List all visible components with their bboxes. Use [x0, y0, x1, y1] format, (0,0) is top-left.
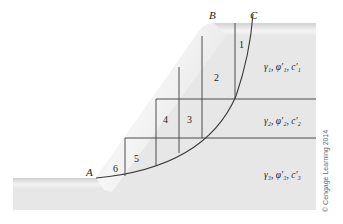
slice-number-5: 5	[134, 153, 139, 164]
point-c-label: C	[250, 9, 258, 21]
point-b-label: B	[209, 9, 216, 21]
slice-number-3: 3	[187, 114, 192, 125]
point-a-label: A	[85, 166, 93, 178]
layer-2-properties: γ₂, φ′₂, c′₂	[264, 116, 301, 126]
slice-number-4: 4	[163, 114, 168, 125]
slice-number-6: 6	[113, 163, 118, 174]
copyright-notice: © Cengage Learning 2014	[322, 130, 330, 212]
slope-stability-diagram: A B C 1 2 3 4 5 6 γ₁, φ′₁, c′₁ γ₂, φ′₂, …	[0, 0, 343, 224]
slice-number-1: 1	[239, 39, 244, 50]
slice-number-2: 2	[214, 72, 219, 83]
layer-1-properties: γ₁, φ′₁, c′₁	[264, 62, 301, 72]
layer-3-properties: γ₃, φ′₃, c′₃	[264, 170, 301, 180]
